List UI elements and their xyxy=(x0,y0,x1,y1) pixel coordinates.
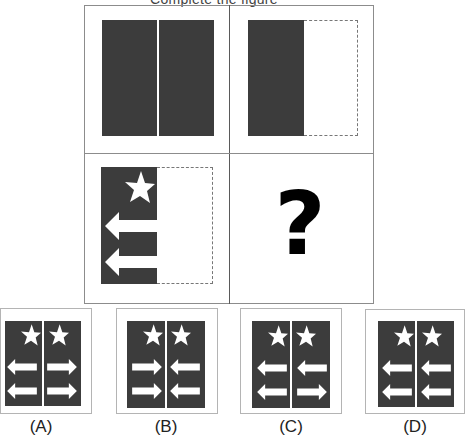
arrow-left-icon xyxy=(256,384,288,400)
arrow-left-icon xyxy=(169,359,201,375)
dark-half-right xyxy=(159,20,214,136)
option-d[interactable] xyxy=(365,309,465,414)
arrow-left-icon xyxy=(381,384,413,400)
puzzle-cell-1 xyxy=(102,20,214,136)
arrow-right-icon xyxy=(47,359,77,375)
star-icon xyxy=(119,171,155,205)
arrow-left-icon xyxy=(256,360,288,376)
arrow-right-icon xyxy=(47,383,77,399)
question-mark: ? xyxy=(250,180,350,280)
option-b[interactable] xyxy=(116,308,218,414)
option-c[interactable] xyxy=(240,308,342,414)
arrow-left-icon xyxy=(105,212,157,240)
star-icon xyxy=(167,324,191,347)
arrow-left-icon xyxy=(296,360,328,376)
arrow-left-icon xyxy=(420,360,452,376)
arrow-right-icon xyxy=(296,384,328,400)
arrow-left-icon xyxy=(7,359,37,375)
star-icon xyxy=(264,325,288,348)
star-icon xyxy=(139,324,163,347)
option-d-label: (D) xyxy=(395,417,435,437)
dark-half-left xyxy=(102,20,157,136)
option-b-label: (B) xyxy=(146,417,186,437)
star-icon xyxy=(390,325,414,348)
star-icon xyxy=(292,325,316,348)
star-icon xyxy=(418,325,442,348)
arrow-left-icon xyxy=(381,360,413,376)
option-a-label: (A) xyxy=(21,417,61,437)
arrow-right-icon xyxy=(131,383,163,399)
puzzle-cell-2 xyxy=(248,20,358,136)
arrow-left-icon xyxy=(420,384,452,400)
arrow-left-icon xyxy=(169,383,201,399)
dark-half-left xyxy=(248,20,304,136)
option-c-label: (C) xyxy=(271,417,311,437)
arrow-left-icon xyxy=(7,383,37,399)
grid-divider-vertical xyxy=(229,5,230,304)
star-icon xyxy=(17,324,41,347)
empty-dashed-half xyxy=(304,20,358,136)
option-a[interactable] xyxy=(0,308,92,414)
star-icon xyxy=(45,324,69,347)
puzzle-cell-3 xyxy=(101,167,213,284)
arrow-left-icon xyxy=(105,248,157,276)
grid-divider-horizontal xyxy=(84,153,374,154)
empty-dashed-half xyxy=(157,167,213,284)
arrow-right-icon xyxy=(131,359,163,375)
